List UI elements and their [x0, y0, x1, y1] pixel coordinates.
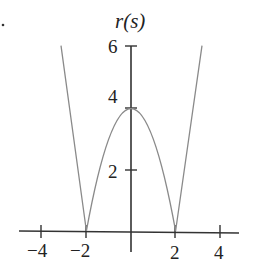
x-tick-label-2: 2	[170, 242, 180, 263]
y-tick-label-4: 4	[108, 86, 118, 107]
chart-canvas: r(s) 6 4 2 −4 −2 2 4	[0, 0, 255, 273]
x-tick-label-neg2: −2	[70, 240, 90, 261]
x-tick-label-neg4: −4	[27, 240, 48, 261]
chart-title: r(s)	[115, 9, 145, 33]
y-tick-label-6: 6	[108, 36, 118, 57]
x-axis	[19, 231, 239, 233]
stray-dot	[2, 24, 5, 27]
y-tick-label-2: 2	[108, 161, 118, 182]
x-tick-label-4: 4	[214, 242, 224, 263]
